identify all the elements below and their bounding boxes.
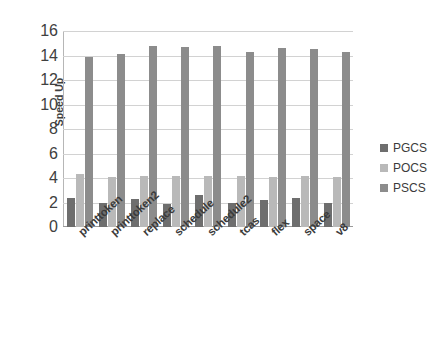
bar-pscs: [181, 47, 189, 227]
speed-up-bar-chart: Speed Up 1614121086420 printtokenprintto…: [0, 0, 446, 339]
legend-swatch-icon: [380, 144, 388, 152]
y-axis-tick-labels: 1614121086420: [20, 0, 58, 339]
bar-group: [64, 31, 96, 227]
legend-item: PSCS: [380, 178, 446, 198]
bar-pscs: [85, 57, 93, 227]
bar-pgcs: [67, 198, 75, 227]
bar-pscs: [278, 48, 286, 227]
legend-item: PGCS: [380, 138, 446, 158]
legend-label: PSCS: [393, 181, 426, 195]
legend-swatch-icon: [380, 184, 388, 192]
y-axis-tick-label: 2: [20, 195, 58, 211]
legend-label: POCS: [393, 161, 427, 175]
bar-pocs: [76, 174, 84, 227]
y-axis-tick-label: 12: [20, 72, 58, 88]
x-axis-tick-labels: printtokenprinttoken2replaceschedulesche…: [63, 229, 353, 339]
bar-pscs: [342, 52, 350, 227]
y-axis-tick-label: 14: [20, 48, 58, 64]
y-axis-tick-label: 0: [20, 219, 58, 235]
bar-pgcs: [292, 198, 300, 227]
bar-pocs: [333, 177, 341, 227]
legend-swatch-icon: [380, 164, 388, 172]
bar-group: [257, 31, 289, 227]
bar-pocs: [269, 177, 277, 227]
bar-group: [289, 31, 321, 227]
bar-pscs: [213, 46, 221, 227]
y-axis-tick-label: 8: [20, 121, 58, 137]
bar-pocs: [172, 176, 180, 227]
legend-item: POCS: [380, 158, 446, 178]
y-axis-tick-label: 16: [20, 23, 58, 39]
bar-pocs: [301, 176, 309, 227]
y-axis-tick-label: 4: [20, 170, 58, 186]
legend: PGCSPOCSPSCS: [380, 138, 446, 198]
bar-group: [321, 31, 353, 227]
bar-group: [160, 31, 192, 227]
y-axis-tick-label: 10: [20, 97, 58, 113]
y-axis-tick-label: 6: [20, 146, 58, 162]
legend-label: PGCS: [393, 141, 427, 155]
bar-pscs: [310, 49, 318, 227]
